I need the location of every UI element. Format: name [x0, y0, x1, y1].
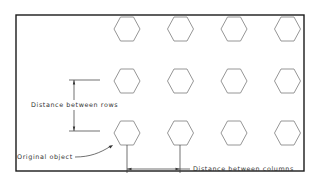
arrow-down-icon — [73, 127, 75, 132]
hexagon-copy — [221, 121, 247, 145]
drawing-frame — [16, 15, 304, 171]
original-object-leader — [75, 145, 113, 157]
arrow-up-icon — [73, 80, 75, 85]
hexagon-copy — [114, 69, 140, 93]
original-object-label: Original object — [17, 154, 73, 160]
hexagon-copy — [221, 17, 247, 41]
hexagon-copy — [221, 69, 247, 93]
columns-dimension — [127, 145, 190, 173]
leader-arrow-icon — [109, 145, 114, 149]
hexagon-copy — [168, 17, 194, 41]
arrow-right-icon — [176, 168, 181, 170]
leader-curve — [75, 146, 111, 157]
hexagon-copy — [114, 17, 140, 41]
original-hexagon — [114, 121, 140, 145]
rows-distance-label: Distance between rows — [31, 102, 118, 108]
hexagon-grid — [114, 17, 301, 145]
hexagon-copy — [168, 121, 194, 145]
hexagon-copy — [168, 69, 194, 93]
hexagon-copy — [275, 121, 301, 145]
hexagon-copy — [275, 69, 301, 93]
arrow-left-icon — [127, 168, 132, 170]
hexagon-copy — [275, 17, 301, 41]
columns-distance-label: Distance between columns — [193, 166, 294, 172]
